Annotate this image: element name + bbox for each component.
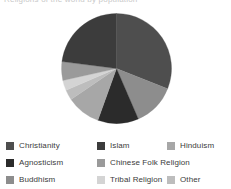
legend-swatch-icon: [97, 159, 105, 167]
legend-swatch-icon: [6, 142, 14, 150]
pie-chart-plot-area: [61, 13, 172, 124]
legend-row: Agnosticism Chinese Folk Religion: [0, 155, 231, 170]
legend-item-other[interactable]: Other: [167, 172, 201, 187]
legend-item-christianity[interactable]: Christianity: [6, 138, 60, 153]
clipped-title-strip: Religions of the world by population: [0, 0, 231, 6]
legend-item-agnosticism[interactable]: Agnosticism: [6, 155, 63, 170]
chart-legend: Christianity Islam Hinduism Agnosticism …: [0, 138, 231, 189]
legend-item-label: Hinduism: [180, 141, 214, 150]
legend-item-buddhism[interactable]: Buddhism: [6, 172, 55, 187]
legend-item-label: Buddhism: [19, 175, 55, 184]
legend-item-label: Islam: [110, 141, 130, 150]
clipped-title-text: Religions of the world by population: [4, 0, 231, 4]
legend-item-tribal-religion[interactable]: Tribal Religion: [97, 172, 162, 187]
legend-item-label: Tribal Religion: [110, 175, 162, 184]
legend-item-label: Other: [180, 175, 201, 184]
legend-swatch-icon: [97, 176, 105, 184]
legend-row: Buddhism Tribal Religion Other: [0, 172, 231, 187]
legend-swatch-icon: [97, 142, 105, 150]
legend-row: Christianity Islam Hinduism: [0, 138, 231, 153]
legend-item-label: Agnosticism: [19, 158, 63, 167]
legend-swatch-icon: [167, 176, 175, 184]
legend-item-hinduism[interactable]: Hinduism: [167, 138, 214, 153]
legend-item-islam[interactable]: Islam: [97, 138, 130, 153]
pie-slice-group: [62, 14, 172, 124]
legend-swatch-icon: [167, 142, 175, 150]
pie-slice-islam[interactable]: [62, 14, 117, 69]
legend-item-chinese-folk-religion[interactable]: Chinese Folk Religion: [97, 155, 190, 170]
legend-swatch-icon: [6, 176, 14, 184]
pie-chart-figure: Religions of the world by population Chr…: [0, 0, 231, 189]
legend-item-label: Chinese Folk Religion: [110, 158, 190, 167]
legend-item-label: Christianity: [19, 141, 60, 150]
pie-chart-svg: [61, 13, 172, 124]
legend-swatch-icon: [6, 159, 14, 167]
